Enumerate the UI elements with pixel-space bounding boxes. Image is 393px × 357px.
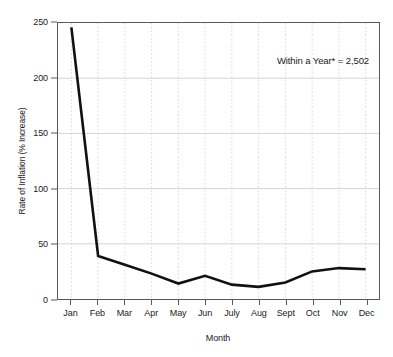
y-tick-label: 250 xyxy=(33,18,48,27)
inflation-data-line xyxy=(71,27,365,286)
y-tick-label: 150 xyxy=(33,129,48,138)
x-tick-label-aug: Aug xyxy=(251,309,267,318)
x-tick-label-dec: Dec xyxy=(359,309,375,318)
x-tick-label-mar: Mar xyxy=(117,309,132,318)
x-tick-label-oct: Oct xyxy=(306,309,320,318)
x-tick-label-feb: Feb xyxy=(90,309,105,318)
x-tick-mark xyxy=(205,300,206,305)
x-tick-label-july: July xyxy=(224,309,240,318)
x-tick-mark xyxy=(97,300,98,305)
x-tick-mark xyxy=(70,300,71,305)
y-axis-title: Rate of Inflation (% Increase) xyxy=(17,107,27,214)
x-tick-mark xyxy=(367,300,368,305)
inflation-line-chart: Rate of Inflation (% Increase) 050100150… xyxy=(0,0,393,357)
x-axis-title: Month xyxy=(206,333,231,343)
x-tick-mark xyxy=(232,300,233,305)
x-tick-mark xyxy=(340,300,341,305)
x-tick-mark xyxy=(259,300,260,305)
x-tick-label-jan: Jan xyxy=(63,309,77,318)
x-axis: Month JanFebMarAprMayJunJulyAugSeptOctNo… xyxy=(0,300,393,357)
within-a-year-annotation: Within a Year* = 2,502 xyxy=(277,55,369,66)
x-tick-label-apr: Apr xyxy=(144,309,158,318)
x-tick-mark xyxy=(124,300,125,305)
x-tick-mark xyxy=(313,300,314,305)
x-tick-mark xyxy=(151,300,152,305)
horizontal-gridlines xyxy=(58,78,379,244)
x-tick-label-sept: Sept xyxy=(277,309,295,318)
y-tick-label: 50 xyxy=(38,240,48,249)
x-tick-label-may: May xyxy=(170,309,187,318)
plot-area: Within a Year* = 2,502 xyxy=(57,22,380,300)
x-tick-label-jun: Jun xyxy=(198,309,212,318)
y-tick-label: 100 xyxy=(33,184,48,193)
x-tick-mark xyxy=(286,300,287,305)
x-tick-mark xyxy=(178,300,179,305)
x-tick-label-nov: Nov xyxy=(332,309,348,318)
y-tick-label: 200 xyxy=(33,73,48,82)
